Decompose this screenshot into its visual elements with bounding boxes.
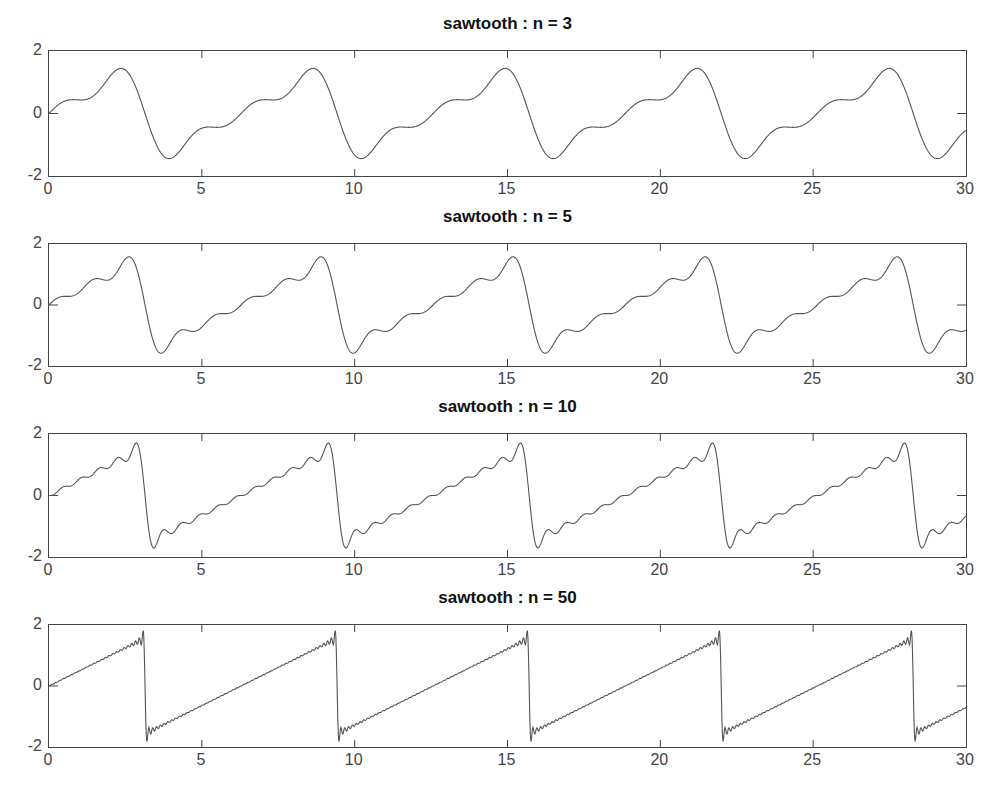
x-tick-label: 0 [28, 180, 68, 198]
sawtooth-line-series [49, 51, 966, 176]
plot-area [48, 624, 967, 748]
x-tick-label: 15 [487, 751, 527, 769]
chart-title: sawtooth : n = 10 [48, 397, 967, 417]
y-tick-label: 0 [2, 104, 42, 122]
x-tick-label: 15 [487, 370, 527, 388]
x-tick-label: 0 [28, 370, 68, 388]
x-tick-label: 25 [792, 751, 832, 769]
x-tick-label: 20 [639, 751, 679, 769]
x-tick-label: 5 [181, 561, 221, 579]
x-tick-label: 20 [639, 180, 679, 198]
sawtooth-line-series [49, 625, 966, 747]
x-tick-label: 0 [28, 751, 68, 769]
x-tick-label: 25 [792, 561, 832, 579]
x-tick-label: 25 [792, 180, 832, 198]
y-tick-label: 0 [2, 486, 42, 504]
y-tick-label: 0 [2, 295, 42, 313]
plot-area [48, 50, 967, 177]
x-tick-label: 10 [334, 751, 374, 769]
x-tick-label: 15 [487, 180, 527, 198]
chart-title: sawtooth : n = 50 [48, 588, 967, 608]
x-tick-label: 5 [181, 370, 221, 388]
x-tick-label: 5 [181, 180, 221, 198]
x-tick-label: 15 [487, 561, 527, 579]
sawtooth-line-series [49, 434, 966, 557]
x-tick-label: 10 [334, 370, 374, 388]
sawtooth-line-series [49, 244, 966, 366]
y-tick-label: 0 [2, 676, 42, 694]
plot-area [48, 243, 967, 367]
y-tick-label: 2 [2, 234, 42, 252]
x-tick-label: 30 [945, 370, 985, 388]
chart-title: sawtooth : n = 3 [48, 14, 967, 34]
x-tick-label: 0 [28, 561, 68, 579]
plot-area [48, 433, 967, 558]
y-tick-label: 2 [2, 41, 42, 59]
chart-title: sawtooth : n = 5 [48, 207, 967, 227]
x-tick-label: 30 [945, 561, 985, 579]
x-tick-label: 20 [639, 561, 679, 579]
x-tick-label: 25 [792, 370, 832, 388]
x-tick-label: 30 [945, 180, 985, 198]
x-tick-label: 10 [334, 561, 374, 579]
x-tick-label: 5 [181, 751, 221, 769]
x-tick-label: 20 [639, 370, 679, 388]
y-tick-label: 2 [2, 615, 42, 633]
x-tick-label: 30 [945, 751, 985, 769]
x-tick-label: 10 [334, 180, 374, 198]
y-tick-label: 2 [2, 424, 42, 442]
